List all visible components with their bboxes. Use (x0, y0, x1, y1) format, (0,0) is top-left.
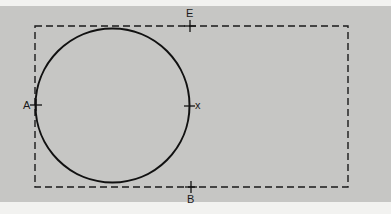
label-E: E (186, 7, 193, 19)
label-x: x (195, 99, 201, 111)
tick-B (185, 181, 197, 193)
tick-E (184, 20, 196, 32)
label-A: A (23, 99, 31, 111)
geometry-diagram: A x E B (0, 0, 391, 214)
circle (36, 29, 190, 183)
label-B: B (187, 193, 194, 205)
tick-A (30, 99, 42, 111)
